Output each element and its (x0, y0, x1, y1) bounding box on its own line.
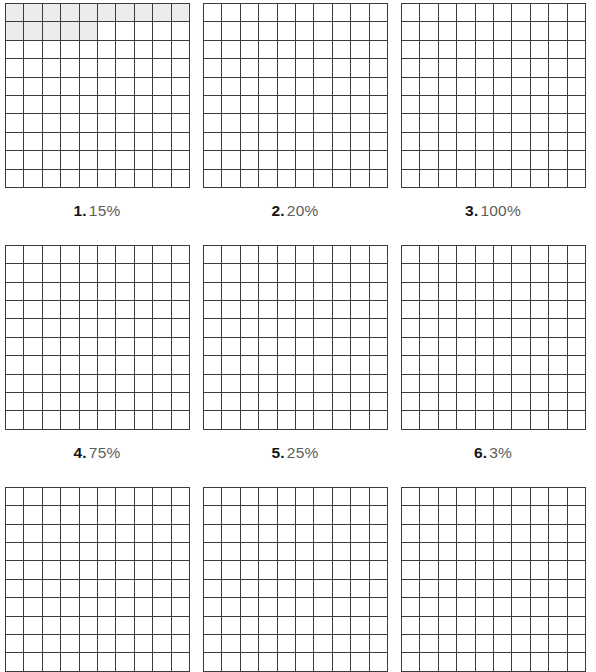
grid-cell[interactable] (98, 170, 116, 188)
grid-cell[interactable] (61, 561, 79, 579)
grid-cell[interactable] (278, 114, 296, 132)
grid-cell[interactable] (204, 4, 222, 22)
grid-cell[interactable] (296, 543, 314, 561)
grid-cell[interactable] (314, 411, 332, 429)
grid-cell[interactable] (420, 151, 438, 169)
grid-cell[interactable] (222, 506, 240, 524)
grid-cell[interactable] (568, 96, 586, 114)
grid-cell[interactable] (278, 301, 296, 319)
grid-cell[interactable] (259, 543, 277, 561)
grid-cell[interactable] (204, 283, 222, 301)
grid-cell[interactable] (333, 170, 351, 188)
grid-cell[interactable] (439, 96, 457, 114)
grid-cell[interactable] (402, 59, 420, 77)
grid-cell[interactable] (314, 580, 332, 598)
grid-cell[interactable] (98, 580, 116, 598)
grid-cell[interactable] (98, 151, 116, 169)
grid-cell[interactable] (61, 41, 79, 59)
grid-cell[interactable] (61, 375, 79, 393)
grid-cell[interactable] (512, 319, 530, 337)
grid-cell[interactable] (494, 561, 512, 579)
grid-cell[interactable] (549, 525, 567, 543)
grid-cell[interactable] (402, 96, 420, 114)
grid-cell[interactable] (259, 114, 277, 132)
grid-cell[interactable] (172, 617, 190, 635)
grid-cell[interactable] (153, 635, 171, 653)
grid-cell[interactable] (402, 375, 420, 393)
grid-cell[interactable] (420, 338, 438, 356)
grid-cell[interactable] (278, 543, 296, 561)
grid-cell[interactable] (476, 133, 494, 151)
grid-cell[interactable] (153, 78, 171, 96)
grid-cell[interactable] (420, 617, 438, 635)
grid-cell[interactable] (296, 301, 314, 319)
grid-cell[interactable] (116, 411, 134, 429)
grid-cell[interactable] (457, 635, 475, 653)
grid-cell-shaded[interactable] (24, 4, 42, 22)
grid-cell[interactable] (204, 301, 222, 319)
grid-cell[interactable] (172, 78, 190, 96)
grid-cell[interactable] (568, 283, 586, 301)
grid-cell[interactable] (241, 133, 259, 151)
grid-cell[interactable] (494, 488, 512, 506)
grid-cell[interactable] (420, 653, 438, 671)
grid-cell[interactable] (402, 411, 420, 429)
grid-cell[interactable] (6, 59, 24, 77)
grid-cell[interactable] (116, 653, 134, 671)
grid-cell[interactable] (24, 151, 42, 169)
grid-cell[interactable] (531, 598, 549, 616)
grid-cell[interactable] (370, 151, 388, 169)
grid-cell[interactable] (43, 411, 61, 429)
grid-cell[interactable] (333, 356, 351, 374)
grid-cell[interactable] (61, 96, 79, 114)
grid-cell[interactable] (153, 246, 171, 264)
grid-cell[interactable] (439, 59, 457, 77)
grid-cell[interactable] (6, 635, 24, 653)
grid-cell[interactable] (80, 375, 98, 393)
grid-cell[interactable] (351, 114, 369, 132)
grid-cell[interactable] (512, 635, 530, 653)
grid-cell[interactable] (296, 525, 314, 543)
grid-cell[interactable] (531, 41, 549, 59)
grid-cell[interactable] (98, 96, 116, 114)
grid-cell[interactable] (222, 133, 240, 151)
grid-cell[interactable] (531, 301, 549, 319)
grid-cell[interactable] (80, 96, 98, 114)
grid-cell[interactable] (457, 114, 475, 132)
grid-cell[interactable] (259, 301, 277, 319)
grid-cell[interactable] (314, 133, 332, 151)
grid-cell[interactable] (6, 338, 24, 356)
grid-cell[interactable] (172, 393, 190, 411)
grid-cell[interactable] (278, 264, 296, 282)
grid-cell[interactable] (80, 580, 98, 598)
grid-cell[interactable] (80, 78, 98, 96)
grid-cell[interactable] (6, 375, 24, 393)
grid-cell[interactable] (222, 319, 240, 337)
grid-cell[interactable] (241, 488, 259, 506)
grid-cell[interactable] (296, 4, 314, 22)
grid-cell-shaded[interactable] (24, 22, 42, 40)
grid-cell[interactable] (402, 393, 420, 411)
grid-cell[interactable] (333, 264, 351, 282)
grid-cell[interactable] (531, 151, 549, 169)
grid-cell[interactable] (351, 133, 369, 151)
percent-grid-7[interactable] (5, 487, 190, 672)
grid-cell[interactable] (278, 635, 296, 653)
grid-cell[interactable] (512, 114, 530, 132)
grid-cell[interactable] (476, 525, 494, 543)
grid-cell[interactable] (402, 151, 420, 169)
grid-cell[interactable] (333, 543, 351, 561)
grid-cell[interactable] (116, 617, 134, 635)
grid-cell[interactable] (549, 319, 567, 337)
grid-cell[interactable] (135, 78, 153, 96)
grid-cell[interactable] (568, 78, 586, 96)
grid-cell[interactable] (420, 4, 438, 22)
grid-cell[interactable] (314, 151, 332, 169)
grid-cell[interactable] (259, 598, 277, 616)
grid-cell[interactable] (278, 283, 296, 301)
grid-cell[interactable] (204, 319, 222, 337)
grid-cell[interactable] (314, 301, 332, 319)
grid-cell[interactable] (531, 319, 549, 337)
grid-cell[interactable] (278, 598, 296, 616)
grid-cell[interactable] (241, 580, 259, 598)
